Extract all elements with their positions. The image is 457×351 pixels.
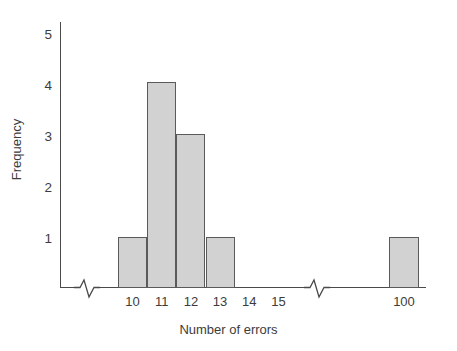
bar-10 [118, 237, 147, 289]
y-axis-title: Frequency [9, 90, 24, 210]
y-tick-label-5: 5 [6, 28, 52, 42]
x-axis-title: Number of errors [0, 322, 457, 337]
bar-12 [176, 134, 205, 289]
axis-break-icon-right [304, 278, 330, 300]
bar-100 [389, 237, 418, 289]
bar-13 [206, 237, 235, 289]
y-axis-line [60, 22, 61, 288]
plot-area: 5 4 3 2 1 10 11 12 13 14 15 100 Number o… [0, 0, 457, 351]
histogram-figure: 5 4 3 2 1 10 11 12 13 14 15 100 Number o… [0, 0, 457, 351]
bar-11 [147, 82, 176, 288]
y-tick-label-1: 1 [6, 232, 52, 246]
x-tick-label-15: 15 [259, 295, 299, 308]
axis-break-icon-left [74, 278, 100, 300]
x-tick-label-100: 100 [384, 295, 424, 308]
